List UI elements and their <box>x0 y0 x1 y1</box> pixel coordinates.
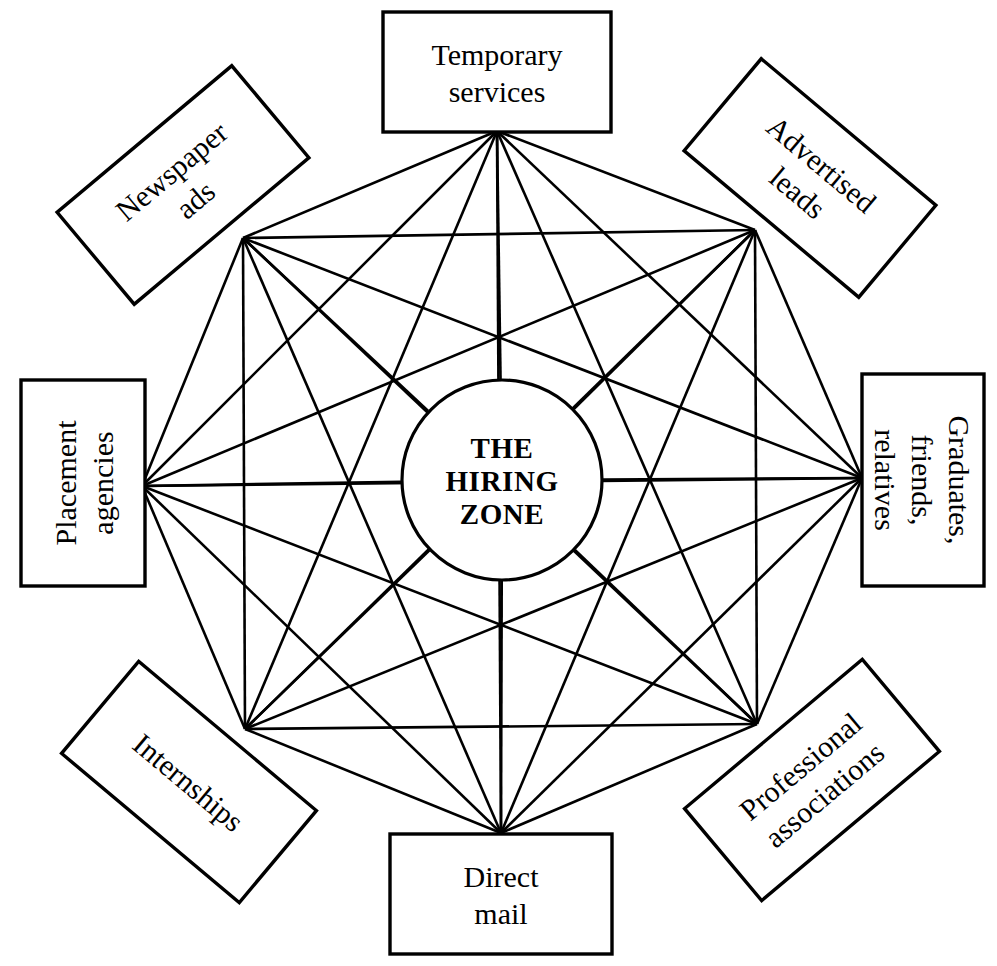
source-box-label-line: Direct <box>464 860 540 893</box>
source-box-outline-professional-associations <box>685 659 940 900</box>
source-box-label-line: relatives <box>869 429 902 531</box>
source-box-placement-agencies[interactable]: Placementagencies <box>21 380 145 586</box>
spoke-newspaper-ads-to-hub <box>243 238 428 411</box>
source-box-outline-direct-mail <box>390 834 612 954</box>
source-box-label-line: Placement <box>49 420 82 546</box>
hiring-zone-label-line: THE <box>470 432 533 464</box>
source-box-label-line: services <box>449 75 546 108</box>
source-box-temporary-services[interactable]: Temporaryservices <box>383 12 611 132</box>
spoke-advertised-leads-to-hub <box>574 230 755 409</box>
source-box-outline-newspaper-ads <box>57 66 309 304</box>
hiring-zone-diagram: THEHIRINGZONE TemporaryservicesNewspaper… <box>0 0 997 966</box>
source-box-label-line: friends, <box>906 435 939 526</box>
source-box-graduates-friends-relatives[interactable]: Graduates,friends,relatives <box>862 374 984 586</box>
source-box-label-line: agencies <box>86 431 119 534</box>
source-box-professional-associations[interactable]: Professionalassociations <box>685 659 940 900</box>
hiring-zone-label-line: HIRING <box>445 465 558 497</box>
diagram-canvas: THEHIRINGZONE TemporaryservicesNewspaper… <box>0 0 997 966</box>
source-box-direct-mail[interactable]: Directmail <box>390 834 612 954</box>
source-box-label-line: Graduates, <box>943 415 976 544</box>
source-box-label-line: mail <box>474 897 527 930</box>
spoke-internships-to-hub <box>245 550 429 729</box>
spoke-professional-associations-to-hub <box>575 550 757 724</box>
source-box-label-line: Temporary <box>431 38 562 71</box>
spoke-direct-mail-to-hub <box>501 581 502 833</box>
source-box-outline-temporary-services <box>383 12 611 132</box>
edge-advertised-leads-to-professional-associations <box>755 230 757 724</box>
hub-layer: THEHIRINGZONE <box>402 380 602 580</box>
source-box-label-graduates-friends-relatives: Graduates,friends,relatives <box>869 415 976 544</box>
hiring-zone-label-line: ZONE <box>460 498 545 530</box>
source-box-outline-placement-agencies <box>21 380 145 586</box>
source-box-newspaper-ads[interactable]: Newspaperads <box>57 66 309 304</box>
spoke-graduates-friends-relatives-to-hub <box>603 478 862 479</box>
